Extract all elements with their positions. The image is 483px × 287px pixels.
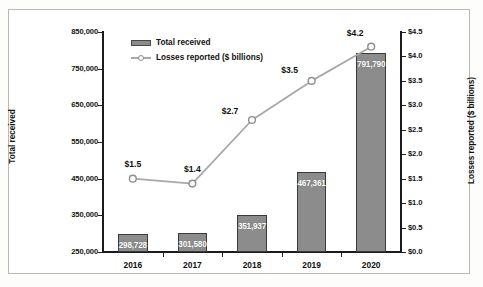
line-circle-swatch-icon: [131, 53, 151, 62]
line-path: [133, 47, 371, 184]
line-marker: [308, 78, 315, 85]
right-axis-tick: [402, 228, 406, 229]
right-axis-tick: [402, 203, 406, 204]
right-axis-tick-label: $3.5: [408, 76, 448, 85]
x-axis-tick: [163, 253, 164, 257]
right-axis-tick-label: $1.5: [408, 174, 448, 183]
x-axis-tick: [341, 253, 342, 257]
right-axis-tick: [402, 105, 406, 106]
line-value-label: $3.5: [281, 65, 298, 75]
right-axis-tick: [402, 32, 406, 33]
left-axis-tick: [98, 105, 102, 106]
right-axis-tick: [402, 130, 406, 131]
right-axis-tick-label: $3.0: [408, 100, 448, 109]
left-axis-tick-label: 350,000: [40, 210, 98, 219]
x-axis-tick-label: 2016: [103, 260, 163, 270]
bar-swatch-icon: [131, 40, 151, 46]
left-axis-tick: [98, 215, 102, 216]
left-axis-tick-label: 750,000: [40, 64, 98, 73]
right-axis-tick: [402, 56, 406, 57]
right-axis-tick-label: $0.5: [408, 223, 448, 232]
right-axis-tick: [402, 154, 406, 155]
right-axis-tick-label: $1.0: [408, 198, 448, 207]
left-axis-tick-labels: 850,000750,000650,000550,000450,000350,0…: [34, 0, 98, 287]
left-axis-tick: [98, 69, 102, 70]
left-axis-tick: [98, 179, 102, 180]
right-axis-tick: [402, 252, 406, 253]
right-axis-tick-label: $2.0: [408, 149, 448, 158]
left-axis-tick-label: 250,000: [40, 247, 98, 256]
x-axis-tick-label: 2017: [162, 260, 222, 270]
x-axis-tick-label: 2020: [341, 260, 401, 270]
right-axis-tick-label: $4.0: [408, 51, 448, 60]
legend-label-losses-reported: Losses reported ($ billions): [156, 53, 263, 62]
right-axis-tick: [402, 179, 406, 180]
x-axis-tick-label: 2019: [282, 260, 342, 270]
left-axis-tick-label: 850,000: [40, 27, 98, 36]
line-value-label: $2.7: [222, 106, 239, 116]
line-value-label: $4.2: [347, 28, 364, 38]
legend-item-total-received: Total received: [131, 36, 263, 49]
line-value-label: $1.5: [124, 159, 141, 169]
right-axis-tick-labels: $4.5$4.0$3.5$3.0$2.5$2.0$1.5$1.0$0.5$0.0: [408, 0, 452, 287]
right-axis-title: Losses reported ($ billions): [467, 63, 476, 199]
right-axis-tick-label: $2.5: [408, 125, 448, 134]
line-value-label: $1.4: [184, 164, 201, 174]
chart-figure: 850,000750,000650,000550,000450,000350,0…: [0, 0, 483, 287]
x-axis-tick: [282, 253, 283, 257]
left-axis-tick: [98, 252, 102, 253]
legend-item-losses-reported: Losses reported ($ billions): [131, 51, 263, 64]
line-marker: [249, 117, 256, 124]
legend-label-total-received: Total received: [156, 38, 210, 47]
x-axis-tick: [222, 253, 223, 257]
chart-legend: Total received Losses reported ($ billio…: [131, 36, 263, 66]
left-axis-tick-label: 650,000: [40, 100, 98, 109]
x-axis-tick-label: 2018: [222, 260, 282, 270]
right-axis-tick: [402, 81, 406, 82]
left-axis-tick-label: 550,000: [40, 137, 98, 146]
right-axis-tick-label: $0.0: [408, 247, 448, 256]
left-axis-tick-label: 450,000: [40, 174, 98, 183]
left-axis-tick: [98, 142, 102, 143]
left-axis-tick: [98, 32, 102, 33]
line-marker: [189, 180, 196, 187]
left-axis-title: Total received: [8, 89, 17, 185]
right-axis-tick-label: $4.5: [408, 27, 448, 36]
line-marker: [129, 175, 136, 182]
line-marker: [368, 43, 375, 50]
